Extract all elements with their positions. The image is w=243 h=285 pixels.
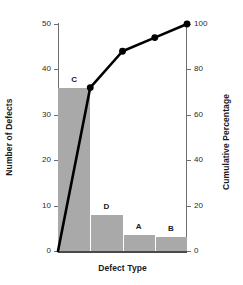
x-axis-title: Defect Type	[58, 263, 187, 273]
y-axis-right-tick	[187, 115, 191, 116]
y-axis-left-tick-label: 0	[25, 247, 51, 255]
cumulative-marker	[151, 34, 158, 41]
y-axis-right-tick-label: 0	[194, 247, 220, 255]
y-axis-left-title: Number of Defects	[4, 77, 14, 197]
cumulative-line-chart	[58, 23, 187, 252]
y-axis-left-tick-label: 20	[25, 156, 51, 164]
y-axis-left-tick-label: 10	[25, 202, 51, 210]
y-axis-right-tick	[187, 69, 191, 70]
y-axis-right-title: Cumulative Percentage	[221, 82, 231, 202]
cumulative-markers	[87, 21, 191, 91]
y-axis-right-tick	[187, 251, 191, 252]
cumulative-marker	[119, 48, 126, 55]
y-axis-left-tick-label: 40	[25, 65, 51, 73]
y-axis-right-tick-label: 80	[194, 65, 220, 73]
plot-area: 50403020100 100806040200 CDAB	[58, 23, 187, 252]
pareto-chart: Number of Defects Cumulative Percentage …	[0, 0, 243, 285]
y-axis-right-tick-label: 40	[194, 156, 220, 164]
cumulative-line	[58, 24, 187, 251]
y-axis-right-tick-label: 20	[194, 202, 220, 210]
cumulative-marker	[87, 84, 94, 91]
y-axis-right-tick-label: 60	[194, 111, 220, 119]
cumulative-marker	[184, 21, 191, 28]
y-axis-right-tick	[187, 160, 191, 161]
y-axis-right-tick	[187, 206, 191, 207]
y-axis-left-tick-label: 50	[25, 20, 51, 28]
y-axis-right-tick-label: 100	[194, 20, 220, 28]
y-axis-left-tick-label: 30	[25, 111, 51, 119]
